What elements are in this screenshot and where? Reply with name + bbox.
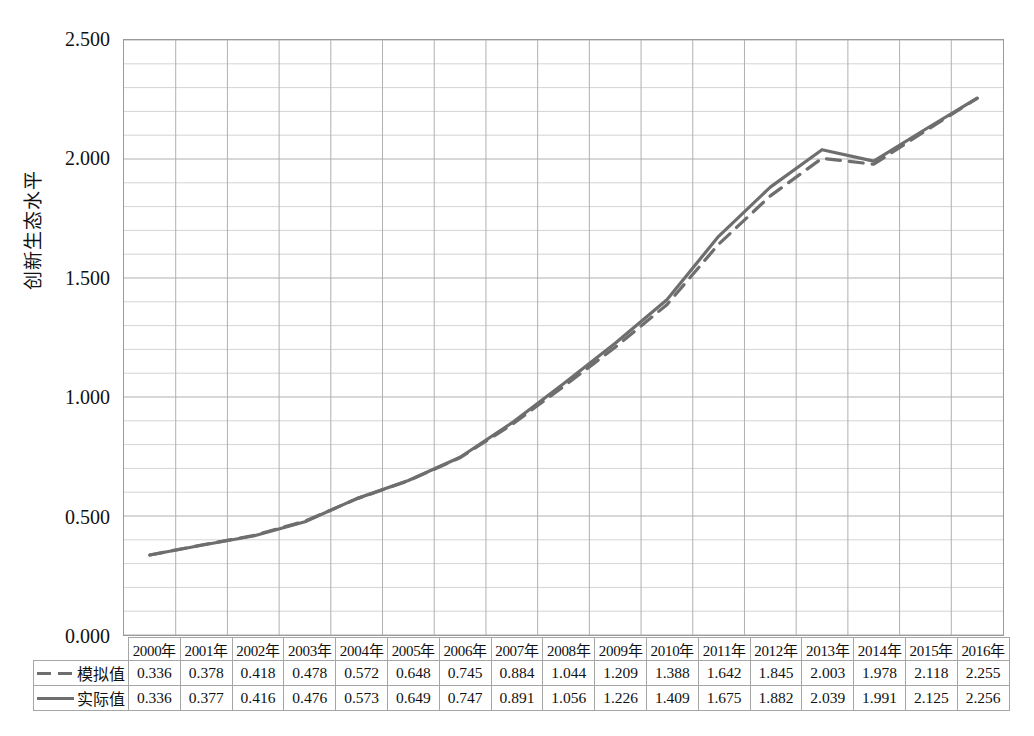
- table-cell-value: 0.377: [180, 686, 232, 711]
- y-tick-label: 2.500: [0, 29, 110, 49]
- x-axis-year-label: 2006年: [439, 638, 491, 661]
- table-cell-value: 0.572: [336, 661, 388, 686]
- table-cell-value: 0.747: [439, 686, 491, 711]
- x-axis-year-label: 2016年: [957, 638, 1009, 661]
- table-corner-cell: [34, 638, 129, 661]
- table-cell-value: 1.056: [543, 686, 595, 711]
- table-cell-value: 0.416: [232, 686, 284, 711]
- gridlines-major: [124, 40, 1003, 635]
- x-axis-year-label: 2011年: [698, 638, 750, 661]
- table-cell-value: 1.642: [698, 661, 750, 686]
- series-lines: [150, 98, 977, 555]
- x-axis-year-label: 2014年: [854, 638, 906, 661]
- y-tick-label: 0.500: [0, 507, 110, 527]
- legend-item-1[interactable]: 模拟值: [34, 661, 129, 686]
- table-cell-value: 0.418: [232, 661, 284, 686]
- gridlines-vertical: [176, 40, 952, 635]
- table-cell-value: 1.991: [854, 686, 906, 711]
- table-cell-value: 1.209: [595, 661, 647, 686]
- series-line-2: [150, 98, 977, 555]
- table-cell-value: 2.039: [802, 686, 854, 711]
- table-cell-value: 1.978: [854, 661, 906, 686]
- table-cell-value: 0.884: [491, 661, 543, 686]
- line-chart: 创新生态水平 2.5002.0001.5001.0000.5000.000 20…: [0, 0, 1034, 736]
- x-axis-year-label: 2010年: [646, 638, 698, 661]
- data-table: 2000年2001年2002年2003年2004年2005年2006年2007年…: [33, 637, 1010, 711]
- table-cell-value: 2.003: [802, 661, 854, 686]
- y-tick-label: 1.500: [0, 268, 110, 288]
- x-axis-year-label: 2015年: [905, 638, 957, 661]
- table-cell-value: 0.573: [336, 686, 388, 711]
- x-axis-year-label: 2003年: [284, 638, 336, 661]
- x-axis-year-label: 2009年: [595, 638, 647, 661]
- table-cell-value: 2.255: [957, 661, 1009, 686]
- x-axis-year-label: 2005年: [387, 638, 439, 661]
- solid-line-icon: [36, 692, 76, 704]
- plot-area: [123, 39, 1004, 636]
- x-axis-year-label: 2002年: [232, 638, 284, 661]
- plot-svg: [124, 40, 1003, 635]
- x-axis-year-label: 2000年: [129, 638, 181, 661]
- table-cell-value: 2.256: [957, 686, 1009, 711]
- legend-label: 模拟值: [77, 661, 125, 685]
- table-cell-value: 0.649: [387, 686, 439, 711]
- table-cell-value: 1.882: [750, 686, 802, 711]
- table-cell-value: 0.378: [180, 661, 232, 686]
- table-cell-value: 2.118: [905, 661, 957, 686]
- table-cell-value: 0.476: [284, 686, 336, 711]
- table-cell-value: 1.845: [750, 661, 802, 686]
- x-axis-year-label: 2007年: [491, 638, 543, 661]
- y-axis-tick-labels: 2.5002.0001.5001.0000.5000.000: [0, 0, 118, 736]
- table-cell-value: 0.336: [129, 686, 181, 711]
- series-line-1: [150, 98, 977, 555]
- x-axis-year-label: 2012年: [750, 638, 802, 661]
- table-cell-value: 1.044: [543, 661, 595, 686]
- dashed-line-icon: [36, 667, 76, 679]
- table-cell-value: 2.125: [905, 686, 957, 711]
- gridlines-minor: [124, 64, 1003, 611]
- x-axis-year-label: 2013年: [802, 638, 854, 661]
- table-row: 实际值0.3360.3770.4160.4760.5730.6490.7470.…: [34, 686, 1010, 711]
- table-cell-value: 0.478: [284, 661, 336, 686]
- y-tick-label: 2.000: [0, 148, 110, 168]
- table-cell-value: 1.675: [698, 686, 750, 711]
- table-header-row: 2000年2001年2002年2003年2004年2005年2006年2007年…: [34, 638, 1010, 661]
- table-cell-value: 0.648: [387, 661, 439, 686]
- table-cell-value: 1.226: [595, 686, 647, 711]
- legend-label: 实际值: [77, 686, 125, 710]
- table-row: 模拟值0.3360.3780.4180.4780.5720.6480.7450.…: [34, 661, 1010, 686]
- table-cell-value: 1.388: [646, 661, 698, 686]
- legend-item-2[interactable]: 实际值: [34, 686, 129, 711]
- table-cell-value: 0.336: [129, 661, 181, 686]
- x-axis-year-label: 2004年: [336, 638, 388, 661]
- x-axis-year-label: 2008年: [543, 638, 595, 661]
- y-tick-label: 1.000: [0, 387, 110, 407]
- table-cell-value: 1.409: [646, 686, 698, 711]
- table-cell-value: 0.745: [439, 661, 491, 686]
- table-cell-value: 0.891: [491, 686, 543, 711]
- x-axis-year-label: 2001年: [180, 638, 232, 661]
